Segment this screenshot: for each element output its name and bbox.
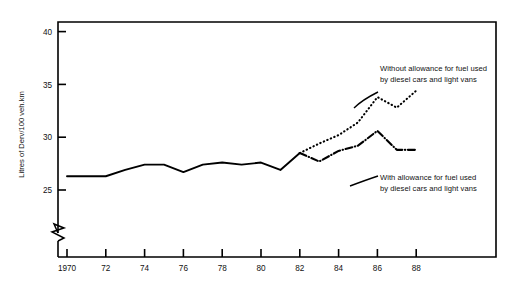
x-tick-label-1970: 1970 bbox=[58, 264, 77, 273]
y-tick-label-35: 35 bbox=[43, 81, 53, 90]
x-tick-label-1978: 78 bbox=[218, 264, 228, 273]
derv-consumption-line-chart: 40 35 30 25 1970 72 74 76 78 80 82 84 86… bbox=[0, 0, 526, 291]
annotation-without-line-1: Without allowance for fuel used bbox=[380, 63, 487, 74]
chart-background bbox=[0, 0, 526, 291]
x-tick-label-1980: 80 bbox=[256, 264, 266, 273]
x-tick-label-1972: 72 bbox=[101, 264, 111, 273]
annotation-without-allowance: Without allowance for fuel used by diese… bbox=[380, 63, 487, 85]
annotation-with-line-2: by diesel cars and light vans bbox=[380, 183, 477, 194]
y-tick-label-30: 30 bbox=[43, 133, 53, 142]
x-tick-label-1988: 88 bbox=[412, 264, 422, 273]
x-tick-label-1984: 84 bbox=[334, 264, 344, 273]
y-tick-label-40: 40 bbox=[43, 28, 53, 37]
x-tick-label-1974: 74 bbox=[140, 264, 150, 273]
x-tick-label-1986: 86 bbox=[373, 264, 383, 273]
x-tick-label-1976: 76 bbox=[179, 264, 189, 273]
annotation-without-line-2: by diesel cars and light vans bbox=[380, 74, 487, 85]
annotation-with-allowance: With allowance for fuel used by diesel c… bbox=[380, 172, 477, 194]
x-tick-label-1982: 82 bbox=[295, 264, 305, 273]
annotation-with-line-1: With allowance for fuel used bbox=[380, 172, 477, 183]
y-axis-label: Litres of Derv/100 veh.km bbox=[17, 70, 26, 200]
y-tick-label-25: 25 bbox=[43, 186, 53, 195]
